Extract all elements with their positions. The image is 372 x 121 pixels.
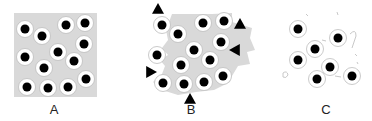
- cell-dot: [196, 74, 213, 91]
- arrowhead-marker-icon: [152, 3, 164, 14]
- cell-dot: [66, 53, 83, 70]
- cell-dot: [60, 79, 77, 96]
- cell-dot: [170, 26, 187, 43]
- cell-dot: [290, 21, 307, 38]
- cell-dot: [344, 68, 361, 85]
- cell-dot: [78, 71, 95, 88]
- cell-dot: [186, 42, 203, 59]
- cell-dot: [76, 36, 93, 53]
- cell-dot: [322, 59, 339, 76]
- cell-dot: [155, 75, 172, 92]
- cell-dot: [290, 52, 307, 69]
- cell-dot: [77, 15, 94, 32]
- cell-dot: [173, 57, 190, 74]
- cell-dot: [202, 52, 219, 69]
- cell-dot: [216, 13, 233, 30]
- cell-dot: [40, 80, 57, 97]
- cell-dot: [195, 15, 212, 32]
- cell-dot: [34, 28, 51, 45]
- cell-dot: [176, 76, 193, 93]
- cell-dot: [154, 17, 171, 34]
- panel-c-label: C: [316, 102, 336, 117]
- cell-dot: [36, 60, 53, 77]
- arrowhead-marker-icon: [146, 66, 157, 78]
- cell-dot: [309, 71, 326, 88]
- cell-dot: [17, 21, 34, 38]
- cell-dot: [50, 44, 67, 61]
- cell-dot: [58, 17, 75, 34]
- cell-dot: [149, 47, 166, 64]
- cell-dot: [307, 41, 324, 58]
- cell-dot: [213, 34, 230, 51]
- cell-dot: [19, 79, 36, 96]
- cell-dot: [215, 68, 232, 85]
- panel-a-label: A: [44, 102, 64, 117]
- panel-b-label: B: [181, 102, 201, 117]
- cell-dot: [17, 49, 34, 66]
- cell-dot: [330, 30, 347, 47]
